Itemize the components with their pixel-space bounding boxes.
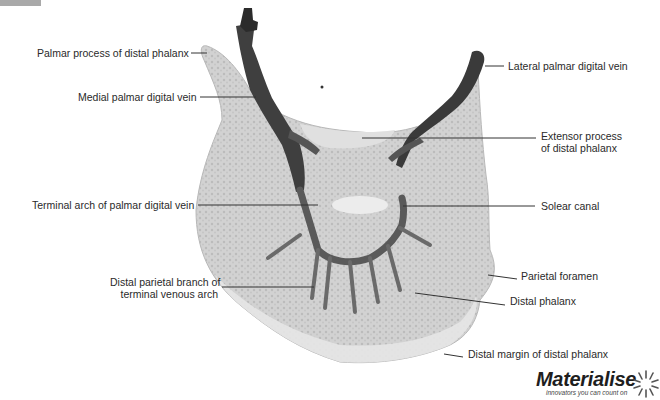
- starburst-icon: [632, 368, 660, 398]
- label-solear-canal: Solear canal: [541, 200, 599, 212]
- label-extensor-process-line1: Extensor process: [541, 130, 622, 142]
- label-terminal-arch: Terminal arch of palmar digital vein: [32, 199, 194, 211]
- label-palmar-process: Palmar process of distal phalanx: [37, 47, 189, 59]
- logo-wordmark: Materialise: [536, 368, 636, 391]
- label-extensor-process-line2: of distal phalanx: [541, 142, 622, 154]
- label-distal-parietal-branch-line1: Distal parietal branch of: [110, 276, 218, 288]
- label-distal-margin: Distal margin of distal phalanx: [468, 348, 608, 360]
- label-distal-parietal-branch-line2: terminal venous arch: [110, 288, 218, 300]
- label-parietal-foramen: Parietal foramen: [521, 270, 598, 282]
- label-extensor-process: Extensor process of distal phalanx: [541, 130, 622, 154]
- logo-tagline: innovators you can count on: [546, 389, 627, 396]
- materialise-logo: Materialise innovators you can count on: [536, 368, 660, 400]
- solear-canal-area: [332, 196, 388, 214]
- label-distal-phalanx: Distal phalanx: [510, 295, 576, 307]
- label-medial-palmar-digital-vein: Medial palmar digital vein: [78, 91, 196, 103]
- medial-vein-top: [240, 8, 258, 32]
- label-lateral-palmar-digital-vein: Lateral palmar digital vein: [508, 60, 628, 72]
- label-distal-parietal-branch: Distal parietal branch of terminal venou…: [110, 276, 218, 300]
